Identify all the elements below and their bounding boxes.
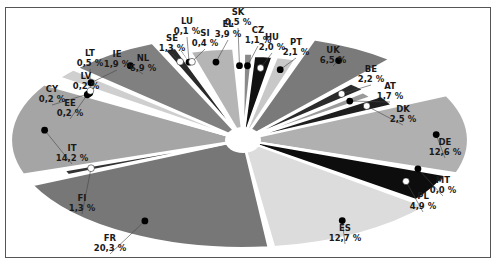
label-pt: PT2,1 %	[283, 37, 310, 57]
label-cz: CZ1,1 %	[245, 25, 272, 45]
label-at: AT1,7 %	[377, 81, 404, 101]
marker-dk	[363, 103, 370, 110]
marker-mt	[415, 165, 422, 172]
center-hole	[225, 127, 261, 153]
label-lt: LT0,5 %	[77, 48, 104, 68]
marker-sk	[236, 62, 243, 69]
marker-se	[177, 58, 184, 65]
marker-it	[41, 127, 48, 134]
marker-be	[338, 91, 345, 98]
marker-cz	[244, 62, 251, 69]
marker-hu	[257, 65, 264, 72]
marker-pl	[403, 178, 410, 185]
marker-fr	[141, 217, 148, 224]
marker-el	[213, 59, 220, 66]
pie-chart: HU2,0 %PT2,1 %UK6,5 %BE2,2 %AT1,7 %DK2,5…	[0, 0, 497, 265]
marker-at	[346, 98, 353, 105]
label-sk: SK0,5 %	[225, 7, 252, 27]
label-se: SE1,3 %	[159, 33, 186, 53]
label-lu: LU0,1 %	[174, 16, 201, 36]
label-fr: FR20,3 %	[94, 233, 127, 253]
marker-fi	[88, 165, 95, 172]
marker-pt	[277, 66, 284, 73]
marker-si	[189, 58, 196, 65]
